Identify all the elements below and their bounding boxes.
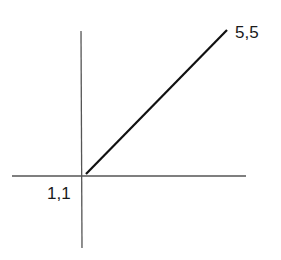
start-point-label: 1,1: [47, 184, 71, 203]
diagram-canvas: 1,1 5,5: [0, 0, 281, 260]
end-point-label: 5,5: [235, 23, 259, 42]
line-segment: [86, 30, 227, 174]
vertical-axis: [81, 31, 82, 248]
